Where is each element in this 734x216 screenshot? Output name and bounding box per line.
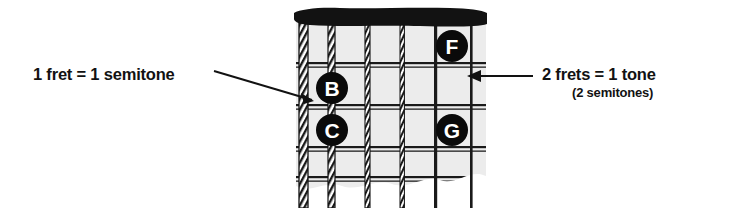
fret-marker-c[interactable]: C xyxy=(316,114,348,146)
fret-marker-c-label: C xyxy=(324,119,339,140)
fretboard-diagram xyxy=(0,0,734,216)
fret-marker-g-label: G xyxy=(444,119,460,140)
right-annotation-text: 2 frets = 1 tone (2 semitones) xyxy=(542,64,656,101)
fret-marker-b[interactable]: B xyxy=(316,72,348,104)
fret-marker-f[interactable]: F xyxy=(436,30,468,62)
fret-marker-f-label: F xyxy=(446,35,459,56)
right-annotation-arrow xyxy=(467,70,533,82)
right-annotation-label: 2 frets = 1 tone xyxy=(542,65,656,83)
string-high-e xyxy=(470,14,473,208)
fret-marker-b-label: B xyxy=(324,77,339,98)
left-annotation-text: 1 fret = 1 semitone xyxy=(33,64,175,84)
string-d xyxy=(365,14,370,208)
figure-canvas: F B C G 1 fret = 1 semitone 2 frets = 1 … xyxy=(0,0,734,216)
string-low-e xyxy=(299,14,308,208)
string-a xyxy=(328,14,335,208)
left-annotation-label: 1 fret = 1 semitone xyxy=(33,65,175,83)
right-annotation-sublabel: (2 semitones) xyxy=(542,84,656,101)
fret-marker-g[interactable]: G xyxy=(436,114,468,146)
string-g xyxy=(400,14,404,208)
nut xyxy=(294,8,487,27)
